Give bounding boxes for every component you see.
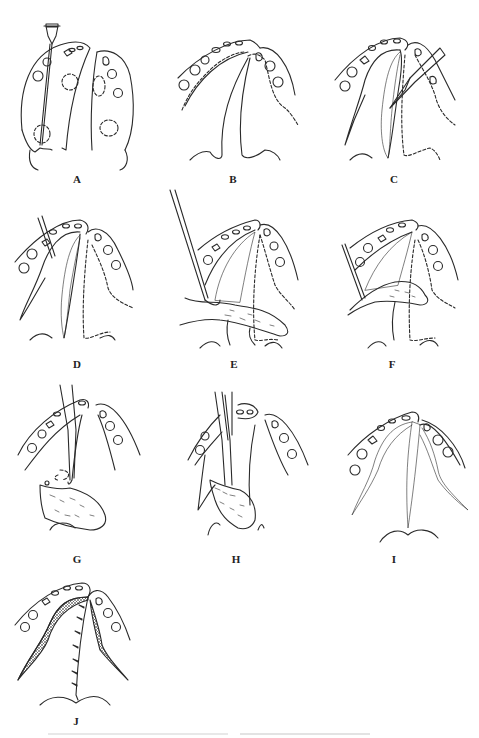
- panel-label-j: J: [66, 715, 86, 727]
- panel-label-e: E: [224, 358, 244, 370]
- panel-c: C: [320, 0, 479, 190]
- panel-f: F: [320, 190, 479, 380]
- panel-j: J: [0, 555, 180, 738]
- panel-d-drawing: [0, 190, 160, 380]
- panel-e: E: [160, 190, 320, 380]
- panel-label-i: I: [384, 553, 404, 565]
- panel-label-b: B: [223, 173, 243, 185]
- panel-e-drawing: [160, 190, 320, 380]
- panel-b-drawing: [160, 0, 320, 190]
- panel-a: A: [0, 0, 160, 190]
- panel-label-h: H: [226, 553, 246, 565]
- panel-j-drawing: [0, 555, 180, 738]
- panel-a-drawing: [0, 0, 160, 190]
- panel-g-drawing: [0, 370, 160, 570]
- panel-h: H: [160, 370, 320, 570]
- panel-f-drawing: [320, 190, 479, 380]
- panel-label-d: D: [67, 358, 87, 370]
- panel-i: I: [320, 370, 479, 570]
- panel-c-drawing: [320, 0, 479, 190]
- panel-label-c: C: [384, 173, 404, 185]
- panel-label-a: A: [67, 173, 87, 185]
- panel-h-drawing: [160, 370, 320, 570]
- figure-caption: [48, 733, 228, 735]
- figure-caption-continued: [240, 733, 370, 735]
- panel-g: G: [0, 370, 160, 570]
- panel-i-drawing: [320, 370, 479, 570]
- panel-d: D: [0, 190, 160, 380]
- panel-b: B: [160, 0, 320, 190]
- panel-label-f: F: [382, 358, 402, 370]
